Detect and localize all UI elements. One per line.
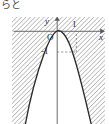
origin-label: O <box>47 33 54 42</box>
plot-area <box>12 17 105 124</box>
y-axis-label: y <box>45 17 49 26</box>
x-axis-label: x <box>99 33 103 42</box>
hatched-region <box>12 17 105 124</box>
caption-text-fragment: らと <box>1 0 21 11</box>
parabola-plot-svg <box>12 17 105 124</box>
y-tick-label-negative-one: -1 <box>41 47 49 56</box>
x-tick-label-one: 1 <box>72 20 77 29</box>
figure-root: らと <box>0 0 109 124</box>
